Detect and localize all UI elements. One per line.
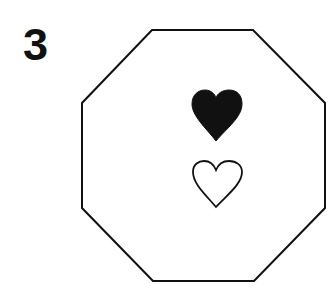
figure-canvas	[0, 0, 335, 300]
outline-heart-icon	[193, 161, 242, 207]
filled-heart-icon	[192, 90, 242, 141]
octagon-shape	[82, 30, 325, 281]
